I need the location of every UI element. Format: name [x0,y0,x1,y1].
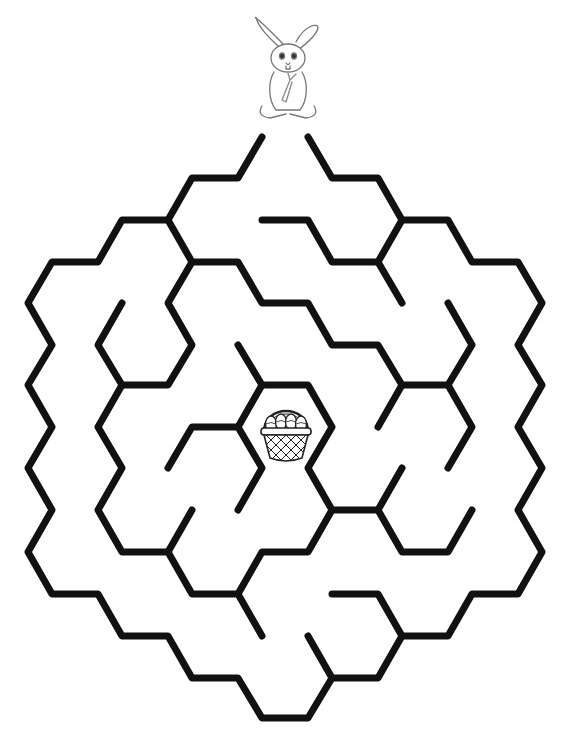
bunny-icon [255,17,318,118]
maze-wall-segment [308,636,332,678]
maze-wall-segment [98,262,192,385]
maze-wall-segment [378,468,402,510]
maze-board [0,0,562,733]
maze-wall-segment [238,427,262,510]
maze-wall-segment [378,262,402,303]
maze-wall-segment [168,510,192,552]
maze-wall-segment [332,594,402,636]
maze-wall-segment [168,385,262,468]
maze-wall-segment [378,385,402,427]
maze-wall-segment [238,510,472,594]
maze-wall-segment [448,385,472,468]
maze-wall-segment [262,220,402,262]
